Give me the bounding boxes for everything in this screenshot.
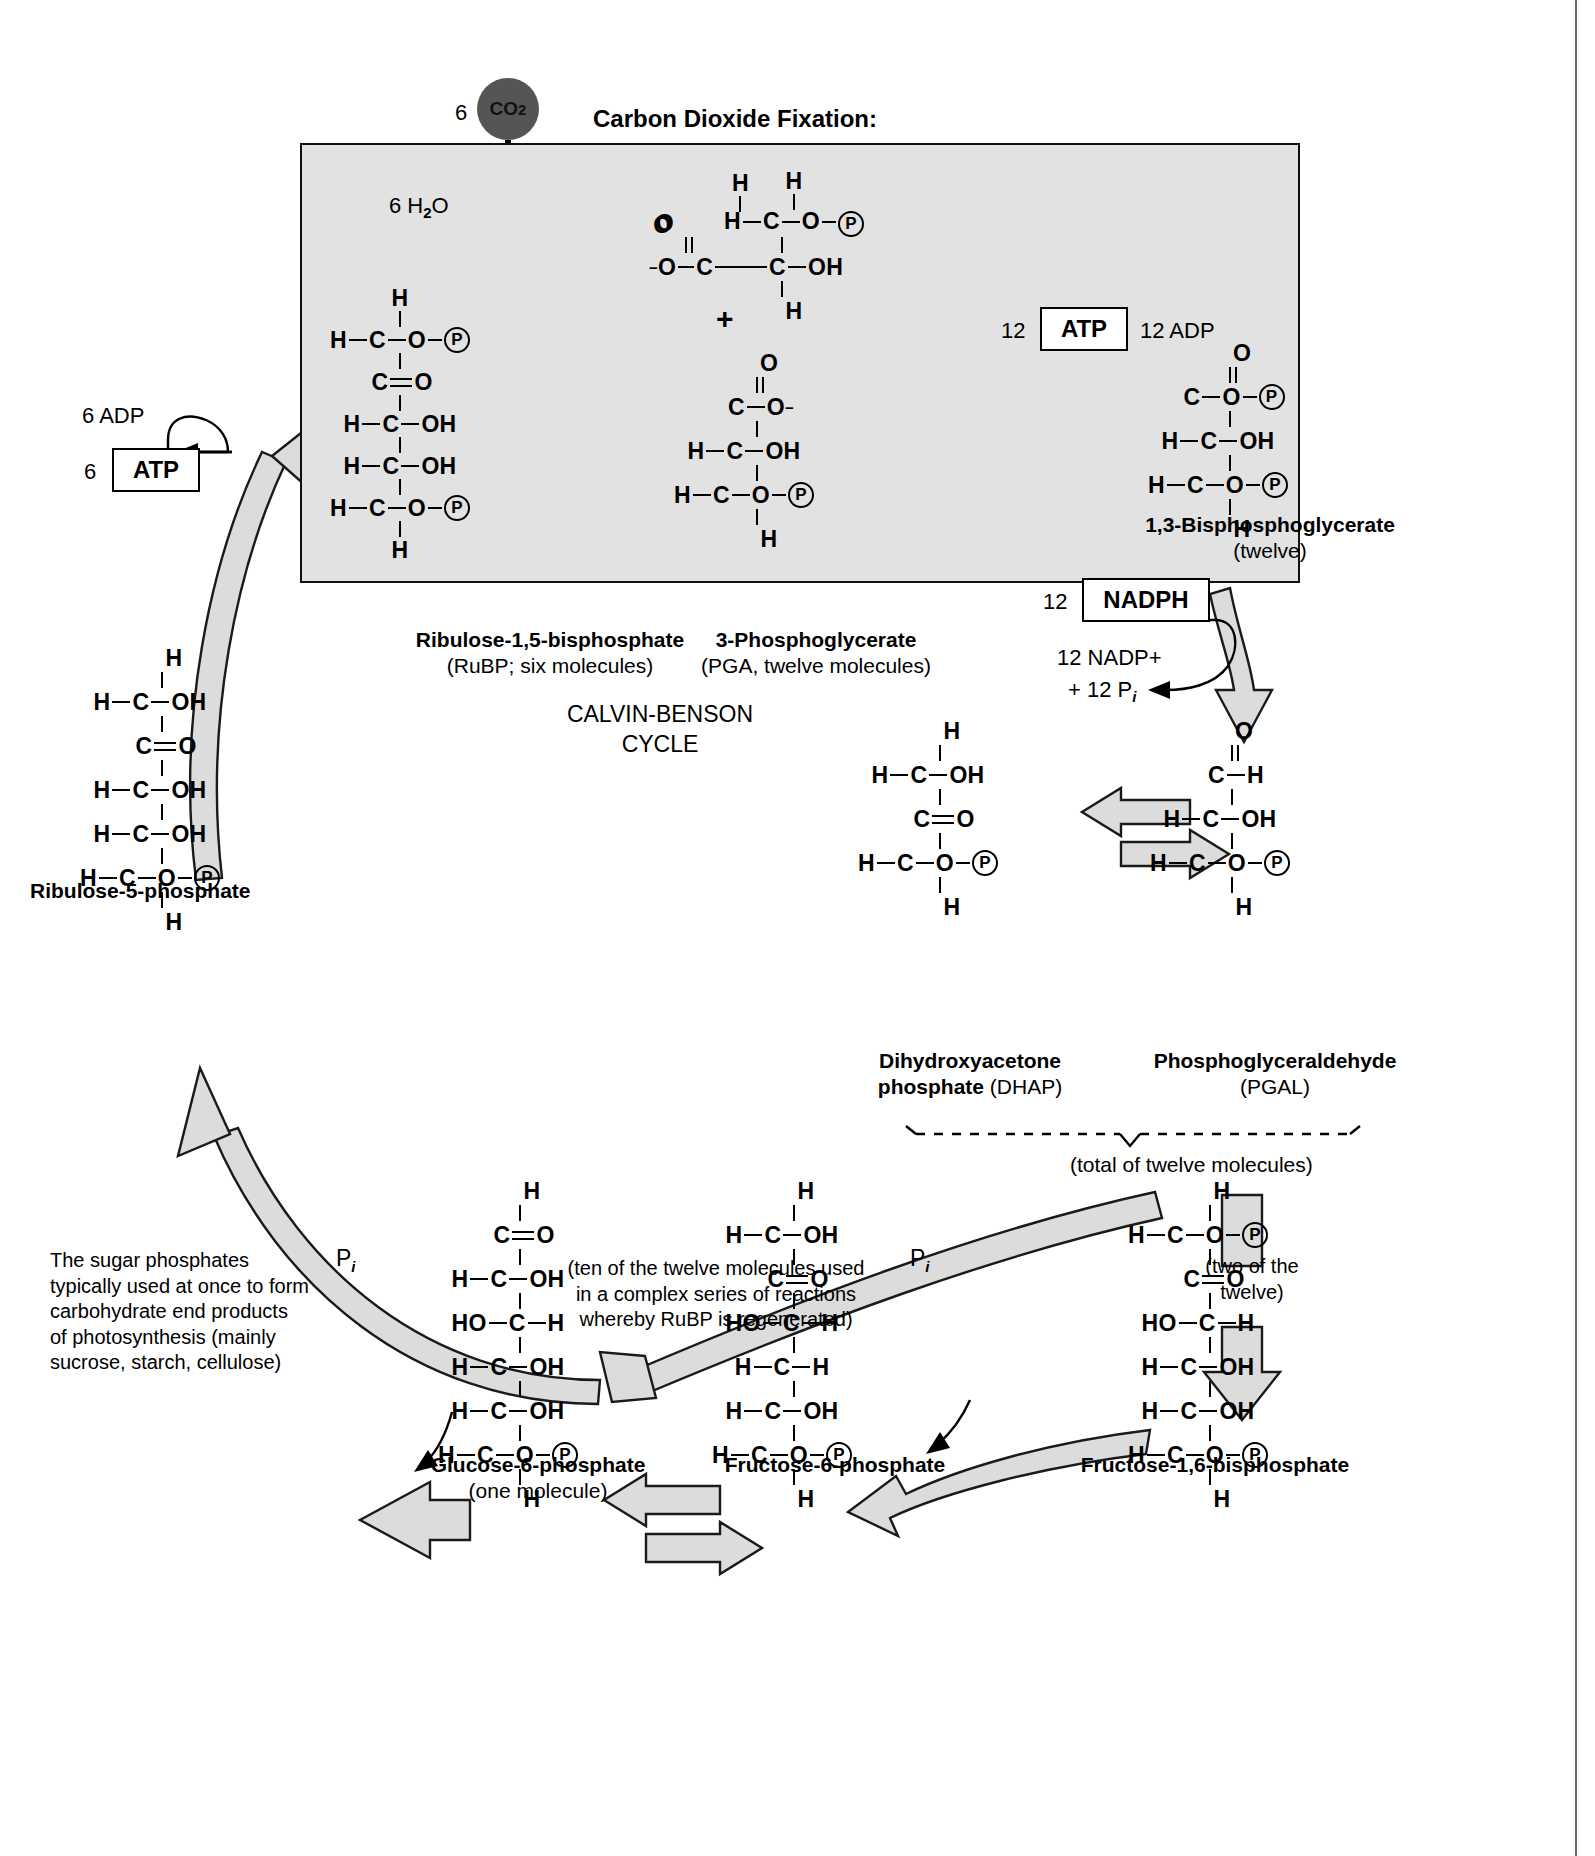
label-dhap-line2: phosphate bbox=[878, 1075, 984, 1098]
end-products-line5: sucrose, starch, cellulose) bbox=[50, 1351, 281, 1373]
adp-left-label: 6 ADP bbox=[82, 402, 144, 430]
end-products-line1: The sugar phosphates bbox=[50, 1249, 249, 1271]
molecule-dhap: H HCOH CO HCOP H bbox=[858, 718, 998, 920]
label-fbp-name: Fructose-1,6-bisphosphate bbox=[1081, 1453, 1349, 1476]
co2-label: CO bbox=[490, 98, 519, 120]
label-g6p-detail: (one molecule) bbox=[469, 1479, 608, 1502]
calvin-cycle-diagram: .fat{fill:#dcdcdc;stroke:#1a1a1a;stroke-… bbox=[0, 0, 1595, 1856]
label-g6p: Glucose-6-phosphate (one molecule) bbox=[368, 1452, 708, 1503]
annotation-total-twelve: (total of twelve molecules) bbox=[1070, 1152, 1313, 1178]
pi-right-p: P bbox=[910, 1245, 925, 1271]
label-f6p: Fructose-6-phosphate bbox=[670, 1452, 1000, 1478]
label-dhap-line1: Dihydroxyacetone bbox=[879, 1049, 1061, 1072]
molecule-pga-upper-detail: H O HCOP −OCCOH H bbox=[628, 168, 864, 324]
nadp-out-line1: 12 NADP+ bbox=[1057, 644, 1162, 672]
co2-count: 6 bbox=[455, 99, 467, 127]
atp-left-box[interactable]: ATP bbox=[112, 448, 200, 492]
label-f6p-name: Fructose-6-phosphate bbox=[725, 1453, 946, 1476]
co2-node: CO2 bbox=[477, 78, 539, 140]
label-g6p-name: Glucose-6-phosphate bbox=[431, 1453, 646, 1476]
label-ru5p: Ribulose-5-phosphate bbox=[30, 878, 350, 904]
pi-right-sub: i bbox=[925, 1258, 929, 1275]
label-fbp: Fructose-1,6-bisphosphate bbox=[1035, 1452, 1395, 1478]
nadph-box[interactable]: NADPH bbox=[1082, 578, 1210, 622]
label-bpg: 1,3-Bisphosphoglycerate (twelve) bbox=[1090, 512, 1450, 563]
label-pgal-name: Phosphoglyceraldehyde bbox=[1154, 1049, 1397, 1072]
end-products-line3: carbohydrate end products bbox=[50, 1300, 288, 1322]
label-pga-name: 3-Phosphoglycerate bbox=[716, 628, 917, 651]
section-heading: Carbon Dioxide Fixation: bbox=[593, 104, 877, 134]
atp-right-box[interactable]: ATP bbox=[1040, 307, 1128, 351]
water-subscript: 2 bbox=[423, 204, 431, 221]
label-bpg-name: 1,3-Bisphosphoglycerate bbox=[1145, 513, 1395, 536]
nadp-out-pi-sub: i bbox=[1132, 688, 1136, 705]
label-dhap-detail: (DHAP) bbox=[990, 1075, 1062, 1098]
water-count: 6 H bbox=[389, 193, 423, 218]
label-ru5p-name: Ribulose-5-phosphate bbox=[30, 879, 251, 902]
nadp-out-line2: + 12 Pi bbox=[1068, 676, 1136, 707]
molecule-pgal: O CH HCOH HCOP H bbox=[1150, 718, 1290, 920]
label-pga-detail: (PGA, twelve molecules) bbox=[701, 654, 931, 677]
end-products-line2: typically used at once to form bbox=[50, 1275, 309, 1297]
nadp-out-pi-text: + 12 P bbox=[1068, 677, 1132, 702]
molecule-rubp: H HCOP CO HCOH HCOH HCOP H bbox=[330, 285, 470, 563]
label-rubp-detail: (RuBP; six molecules) bbox=[447, 654, 654, 677]
label-pga: 3-Phosphoglycerate (PGA, twelve molecule… bbox=[636, 627, 996, 678]
water-tail: O bbox=[432, 193, 449, 218]
atp-right-count: 12 bbox=[1001, 317, 1025, 345]
pi-label-right: Pi bbox=[910, 1244, 930, 1276]
water-label: 6 H2O bbox=[389, 192, 449, 223]
label-pgal-detail: (PGAL) bbox=[1240, 1075, 1310, 1098]
molecule-pga-lower: O CO− HCOH HCOP H bbox=[628, 350, 814, 552]
end-products-line4: of photosynthesis (mainly bbox=[50, 1326, 276, 1348]
annotation-end-products: The sugar phosphates typically used at o… bbox=[50, 1248, 360, 1376]
pga-plus-sign: + bbox=[716, 300, 734, 338]
atp-left-count: 6 bbox=[84, 458, 96, 486]
label-bpg-detail: (twelve) bbox=[1233, 539, 1307, 562]
nadph-count: 12 bbox=[1043, 588, 1067, 616]
co2-subscript: 2 bbox=[518, 101, 526, 118]
label-pgal: Phosphoglyceraldehyde (PGAL) bbox=[1105, 1048, 1445, 1099]
label-dhap: Dihydroxyacetone phosphate (DHAP) bbox=[820, 1048, 1120, 1099]
page-edge-rule bbox=[1575, 0, 1577, 1856]
cycle-title: CALVIN-BENSON CYCLE bbox=[510, 700, 810, 760]
cycle-title-text: CALVIN-BENSON CYCLE bbox=[567, 700, 753, 760]
